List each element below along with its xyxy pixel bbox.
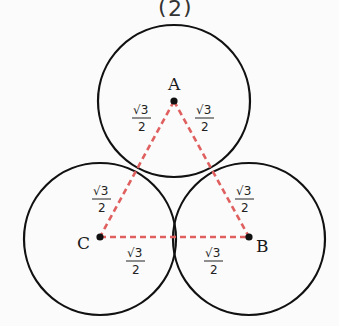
top-fragment-value: 2 (168, 0, 182, 21)
fraction-numerator: √3 (196, 103, 211, 117)
fraction-numerator: √3 (236, 184, 251, 198)
label-C: C (77, 233, 90, 253)
segment-AB (174, 101, 249, 237)
fraction-denominator: 2 (98, 201, 106, 215)
label-B: B (256, 236, 269, 256)
fraction-denominator: 2 (241, 201, 249, 215)
segment-AC (100, 101, 174, 237)
fraction-C-lower: √3 2 (126, 246, 145, 277)
label-A: A (167, 74, 181, 94)
fraction-numerator: √3 (133, 103, 148, 117)
fraction-B-lower: √3 2 (204, 246, 223, 277)
fraction-denominator: 2 (210, 263, 218, 277)
point-C (96, 233, 103, 240)
fraction-denominator: 2 (132, 263, 140, 277)
dashed-triangle (100, 101, 249, 237)
fraction-C-upper: √3 2 (92, 184, 111, 215)
fraction-denominator: 2 (201, 120, 209, 134)
fraction-numerator: √3 (127, 246, 142, 260)
tangent-circles-diagram: ( 2 ) A C B √3 2 √3 2 √3 2 √3 2 √3 2 (0, 0, 339, 326)
top-fragment-right-paren: ) (183, 0, 192, 19)
top-fragment-left-paren: ( (158, 0, 167, 19)
fraction-numerator: √3 (205, 246, 220, 260)
fraction-numerator: √3 (93, 184, 108, 198)
fraction-A-left: √3 2 (132, 103, 151, 134)
fraction-B-upper: √3 2 (235, 184, 254, 215)
fraction-A-right: √3 2 (195, 103, 214, 134)
point-A (170, 97, 177, 104)
fraction-denominator: 2 (138, 120, 146, 134)
point-B (245, 233, 252, 240)
